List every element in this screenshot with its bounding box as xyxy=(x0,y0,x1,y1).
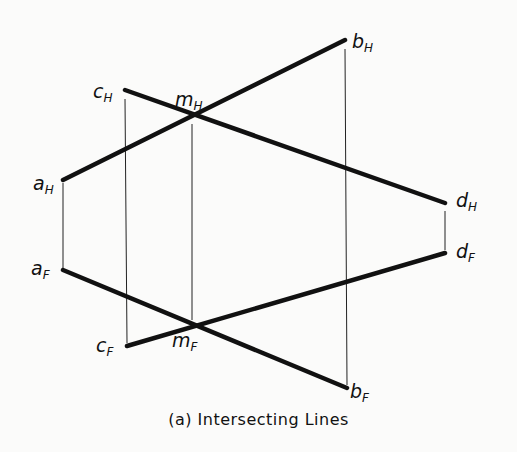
figure-caption: (a) Intersecting Lines xyxy=(0,410,517,429)
line-ab-frontal xyxy=(63,270,347,388)
intersecting-lines-diagram: bH cH mH aH dH aF dF cF mF bF xyxy=(0,0,517,452)
label-c-f: cF xyxy=(96,334,114,359)
labels-horizontal: bH cH mH aH dH xyxy=(33,30,477,214)
line-cd-horizontal xyxy=(125,90,445,203)
label-m-f: mF xyxy=(172,329,199,354)
projector-c xyxy=(125,99,127,343)
label-a-h: aH xyxy=(33,172,54,197)
label-d-f: dF xyxy=(456,240,476,265)
line-ab-horizontal xyxy=(63,40,345,180)
label-c-h: cH xyxy=(93,80,112,105)
label-m-h: mH xyxy=(175,88,203,113)
label-b-f: bF xyxy=(350,380,370,405)
label-b-h: bH xyxy=(352,30,373,55)
projector-b xyxy=(345,49,347,385)
horizontal-view xyxy=(63,40,445,203)
label-a-f: aF xyxy=(31,257,51,282)
frontal-view xyxy=(63,253,445,388)
projector-lines xyxy=(63,49,445,385)
label-d-h: dH xyxy=(456,189,477,214)
